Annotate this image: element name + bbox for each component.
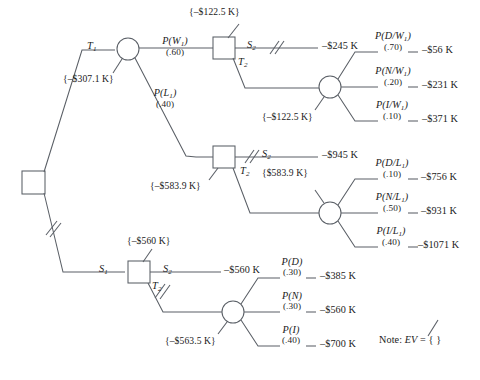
ev-pointer-c-s2 (218, 322, 227, 334)
decision-node-w1[interactable] (213, 37, 235, 59)
ev-pointer-c-t1 (113, 59, 122, 73)
payoff-n-l1: –$931 K (421, 206, 457, 217)
ev-chance-node-s2: {–$563.5 K} (165, 336, 216, 346)
payoff-i: –$700 K (320, 339, 356, 350)
branch-label-s2-mid: S2 (262, 149, 271, 161)
edge-i-w1 (338, 95, 378, 121)
decision-node-s1[interactable] (128, 261, 150, 283)
prob-label-d-l1: P(D/L1) (.10) (375, 158, 408, 179)
prob-label-w1: P(W1) (.60) (162, 36, 188, 57)
prob-label-d-w1: P(D/W1) (.70) (375, 31, 411, 52)
chance-node-l1-outcomes[interactable] (319, 202, 341, 224)
ev-pointer-d-top (228, 24, 239, 38)
branch-label-t2-mid: T2 (240, 166, 250, 178)
payoff-n: –$560 K (320, 305, 356, 316)
chance-node-s2-outcomes[interactable] (222, 301, 244, 323)
prob-label-l1: P(L1) (.40) (154, 88, 177, 109)
edge-root-s1 (44, 193, 125, 272)
ev-decision-node-l1: {–$583.9 K} (150, 181, 201, 191)
payoff-i-w1: –$371 K (422, 114, 458, 125)
prob-label-i-l1: P(I/L1) (.40) (376, 226, 405, 247)
chance-node-t1[interactable] (117, 38, 139, 60)
edge-d-bot (241, 278, 280, 304)
payoff-i-l1: –$1071 K (418, 240, 459, 251)
ev-chance-node-l1: {$583.9 K} (262, 168, 308, 178)
ev-root-t1-chance: {–$307.1 K} (63, 74, 114, 84)
chance-node-w1-outcomes[interactable] (319, 76, 341, 98)
branch-label-s1: S1 (99, 264, 108, 276)
note-label: Note: EV = { } (379, 335, 441, 346)
edge-i-l1 (338, 221, 378, 247)
ev-pointer-d-bot (143, 249, 152, 262)
decision-node-l1[interactable] (213, 146, 235, 168)
branch-label-t2-bot: T2 (152, 281, 162, 293)
payoff-s2-bot: –$560 K (224, 265, 260, 276)
edge-d-l1 (338, 179, 378, 205)
ev-pointer-c-l1 (315, 190, 324, 203)
ev-decision-node-w1: {–$122.5 K} (189, 7, 240, 17)
edge-d-w1 (338, 52, 378, 79)
ev-decision-node-s1: {–$560 K} (127, 236, 170, 246)
payoff-n-w1: –$231 K (422, 80, 458, 91)
branch-label-s2-bot: S2 (163, 264, 172, 276)
prob-label-n: P(N) (.30) (282, 291, 302, 311)
prob-label-i: P(I) (.40) (282, 325, 300, 345)
payoff-d-l1: –$756 K (421, 172, 457, 183)
branch-label-s2-top: S2 (247, 40, 256, 52)
ev-chance-node-w1: {–$122.5 K} (262, 112, 313, 122)
payoff-d: –$385 K (320, 271, 356, 282)
prob-label-n-l1: P(N/L1) (.50) (376, 192, 409, 213)
edge-i-bot (241, 320, 280, 346)
payoff-s2-mid: –$945 K (322, 150, 358, 161)
branch-label-t2-top: T2 (238, 57, 248, 69)
ev-pointer-c-w1 (315, 97, 324, 110)
branch-label-t1: T1 (87, 41, 97, 53)
prob-label-n-w1: P(N/W1) (.20) (375, 66, 410, 87)
edge-root-t1 (44, 50, 115, 172)
decision-tree-diagram: T1 S1 T2 T2 T2 S2 S2 S2 P(W1) (.60) P(L1… (0, 0, 480, 380)
ev-pointer-d-mid (209, 168, 218, 180)
payoff-d-w1: –$56 K (422, 45, 453, 56)
prob-label-i-w1: P(I/W1) (.10) (376, 100, 408, 121)
prob-label-d: P(D) (.30) (282, 257, 303, 277)
root-decision-node[interactable] (22, 171, 45, 194)
payoff-s2-top: –$245 K (322, 41, 358, 52)
